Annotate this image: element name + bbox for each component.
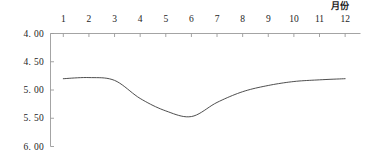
tick-marks: [51, 34, 346, 147]
axis-lines: [51, 34, 361, 147]
data-series-line: [63, 78, 345, 117]
chart-figure: 月份 后南昌站地下水埋深/m 123456789101112 4. 004. 5…: [0, 0, 371, 158]
plot-area: [0, 0, 371, 158]
